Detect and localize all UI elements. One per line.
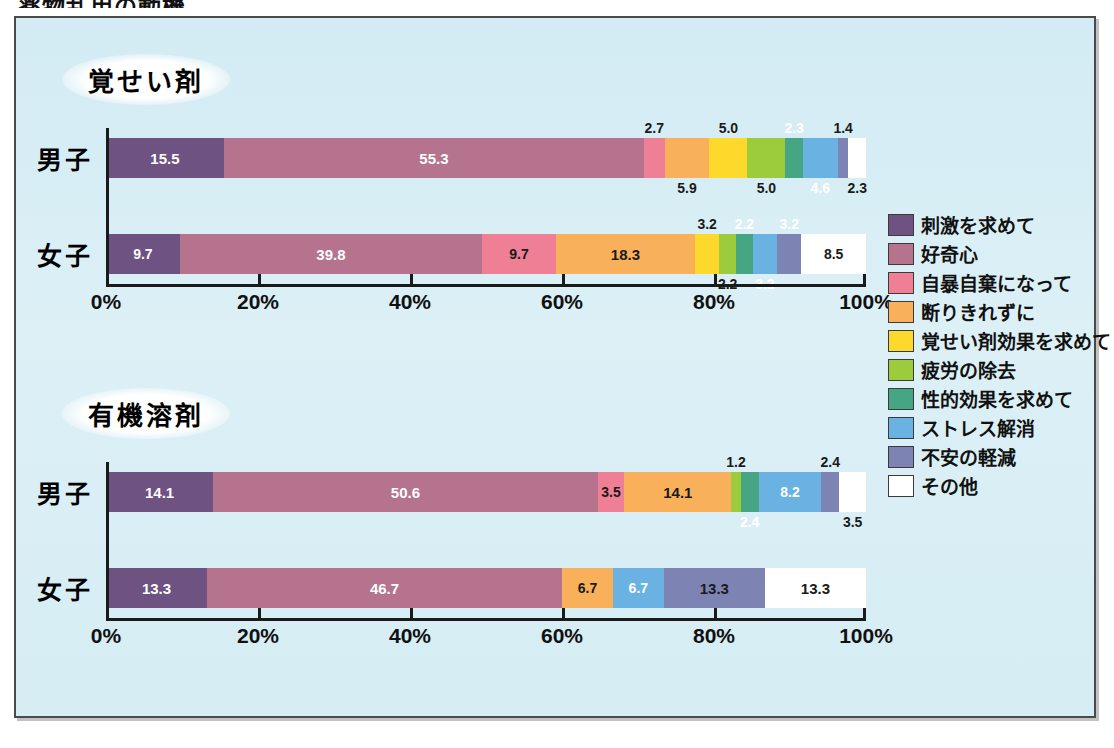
- axis-tick-label: 40%: [389, 624, 431, 648]
- value-axis-line: [106, 284, 866, 287]
- segment-value: 55.3: [419, 151, 448, 166]
- legend-item: 刺激を求めて: [888, 210, 1098, 239]
- category-axis-line: [106, 462, 109, 618]
- chart-panel: 覚せい剤 男子15.555.32.75.95.05.02.34.61.42.3女…: [14, 16, 1096, 718]
- bar-segment: 2.4: [821, 472, 839, 512]
- legend-item: 断りきれずに: [888, 297, 1098, 326]
- bar-segment: 3.5: [598, 472, 625, 512]
- category-axis-line: [106, 128, 109, 284]
- segment-value: 2.7: [645, 121, 664, 135]
- segment-value: 39.8: [316, 247, 345, 262]
- bar-track: 13.346.76.76.713.313.3: [106, 568, 866, 608]
- axis-tick: [106, 274, 109, 284]
- bar-segment: 5.0: [747, 138, 785, 178]
- legend-swatch: [888, 272, 914, 294]
- bar-row-solvent-female: 女子13.346.76.76.713.313.3: [34, 558, 874, 618]
- bar-segment: 39.8: [180, 234, 482, 274]
- segment-value: 5.9: [677, 181, 696, 195]
- bar-row-label: 男子: [34, 128, 96, 188]
- bar-segment: 2.3: [848, 138, 865, 178]
- segment-value: 2.2: [735, 217, 754, 231]
- segment-value: 9.7: [133, 247, 152, 261]
- bar-segment: 2.7: [644, 138, 665, 178]
- axis-tick: [106, 608, 109, 618]
- segment-value: 1.4: [833, 121, 852, 135]
- axis-tick: [410, 608, 413, 618]
- segment-value: 6.7: [629, 581, 648, 595]
- axis-tick: [863, 608, 866, 618]
- axis-tick-label: 100%: [839, 624, 893, 648]
- axis-tick-label: 60%: [541, 290, 583, 314]
- legend: 刺激を求めて好奇心自暴自棄になって断りきれずに覚せい剤効果を求めて疲労の除去性的…: [888, 210, 1098, 500]
- segment-value: 3.5: [601, 485, 620, 499]
- segment-value: 46.7: [370, 581, 399, 596]
- bar-segment: 3.2: [695, 234, 719, 274]
- legend-item: 性的効果を求めて: [888, 384, 1098, 413]
- axis-tick-label: 0%: [91, 290, 121, 314]
- legend-swatch: [888, 359, 914, 381]
- chart-group-solvent: 男子14.150.63.514.11.22.48.22.43.5女子13.346…: [34, 462, 874, 618]
- bar-segment: 14.1: [106, 472, 213, 512]
- legend-label: 疲労の除去: [921, 356, 1016, 383]
- stacked-bar: 14.150.63.514.11.22.48.22.43.5: [106, 472, 866, 512]
- bar-segment: 9.7: [106, 234, 180, 274]
- axis-tick: [562, 608, 565, 618]
- segment-value: 18.3: [611, 247, 640, 262]
- segment-value: 2.3: [784, 121, 803, 135]
- legend-swatch: [888, 301, 914, 323]
- bar-track: 9.739.89.718.33.22.22.23.23.28.5: [106, 234, 866, 274]
- stacked-bar: 15.555.32.75.95.05.02.34.61.42.3: [106, 138, 866, 178]
- legend-label: 覚せい剤効果を求めて: [921, 327, 1111, 354]
- legend-label: ストレス解消: [921, 414, 1035, 441]
- bar-segment: 15.5: [106, 138, 224, 178]
- legend-swatch: [888, 388, 914, 410]
- legend-swatch: [888, 330, 914, 352]
- legend-label: 不安の軽減: [921, 443, 1016, 470]
- segment-value: 8.5: [824, 247, 843, 261]
- segment-value: 50.6: [391, 485, 420, 500]
- legend-label: 好奇心: [921, 240, 978, 267]
- document-title: 薬物乱用の動機: [18, 0, 186, 8]
- legend-swatch: [888, 475, 914, 497]
- segment-value: 2.3: [847, 181, 866, 195]
- axis-tick-label: 40%: [389, 290, 431, 314]
- chart-page: 薬物乱用の動機 覚せい剤 男子15.555.32.75.95.05.02.34.…: [0, 0, 1114, 748]
- segment-value: 13.3: [801, 581, 830, 596]
- bar-segment: 4.6: [803, 138, 838, 178]
- value-axis: 0%20%40%60%80%100%: [106, 284, 866, 285]
- axis-tick: [863, 274, 866, 284]
- bar-segment: 5.9: [665, 138, 710, 178]
- legend-swatch: [888, 243, 914, 265]
- section-title-solvent: 有機溶剤: [62, 388, 230, 439]
- bar-segment: 13.3: [765, 568, 866, 608]
- axis-tick: [714, 274, 717, 284]
- bar-segment: 46.7: [207, 568, 562, 608]
- axis-tick-label: 80%: [693, 624, 735, 648]
- legend-label: 刺激を求めて: [921, 211, 1035, 238]
- bar-segment: 9.7: [482, 234, 556, 274]
- legend-item: ストレス解消: [888, 413, 1098, 442]
- segment-value: 5.0: [757, 181, 776, 195]
- legend-swatch: [888, 417, 914, 439]
- legend-item: 好奇心: [888, 239, 1098, 268]
- axis-tick: [258, 608, 261, 618]
- bar-segment: 3.2: [777, 234, 801, 274]
- axis-tick: [258, 274, 261, 284]
- bar-segment: 14.1: [624, 472, 731, 512]
- bar-segment: 2.3: [785, 138, 802, 178]
- segment-value: 3.2: [779, 217, 798, 231]
- segment-value: 6.7: [578, 581, 597, 595]
- bar-row-stimulant-male: 男子15.555.32.75.95.05.02.34.61.42.3: [34, 128, 874, 188]
- segment-value: 1.2: [726, 455, 745, 469]
- value-axis: 0%20%40%60%80%100%: [106, 618, 866, 619]
- segment-value: 13.3: [700, 581, 729, 596]
- bar-track: 14.150.63.514.11.22.48.22.43.5: [106, 472, 866, 512]
- axis-tick-label: 60%: [541, 624, 583, 648]
- legend-label: 性的効果を求めて: [921, 385, 1073, 412]
- segment-value: 3.5: [843, 515, 862, 529]
- bar-segment: 2.2: [719, 234, 736, 274]
- bar-segment: 8.5: [801, 234, 866, 274]
- segment-value: 13.3: [142, 581, 171, 596]
- bar-row-label: 女子: [34, 558, 96, 618]
- legend-swatch: [888, 446, 914, 468]
